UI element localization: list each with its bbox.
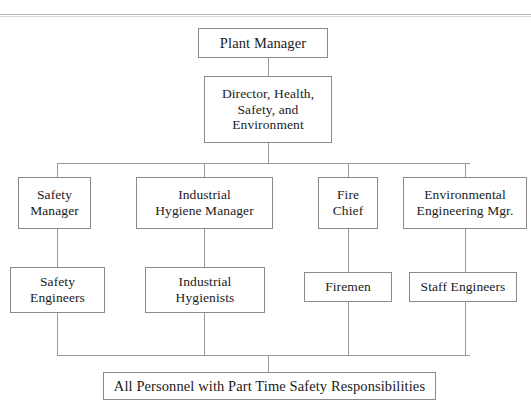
connector-hygienists-to-bus	[204, 313, 205, 356]
node-firemen[interactable]: Firemen	[304, 272, 392, 302]
connector-bus-to-env-eng-mgr	[465, 163, 466, 177]
connector-env-mgr-to-staff-engineers	[465, 229, 466, 272]
node-safety-engineers[interactable]: Safety Engineers	[10, 267, 105, 313]
node-staff-engineers[interactable]: Staff Engineers	[409, 272, 517, 302]
connector-bus-to-all-personnel	[268, 355, 269, 372]
node-all-personnel-label: All Personnel with Part Time Safety Resp…	[111, 378, 428, 395]
connector-ih-manager-to-hygienists	[204, 229, 205, 267]
node-safety-manager[interactable]: Safety Manager	[18, 177, 91, 229]
page-top-rule-shadow	[0, 16, 531, 17]
node-firemen-label: Firemen	[322, 279, 374, 295]
node-safety-engineers-label: Safety Engineers	[27, 274, 88, 305]
node-industrial-hygiene-manager-label: Industrial Hygiene Manager	[152, 187, 257, 218]
node-fire-chief-label: Fire Chief	[330, 187, 367, 218]
node-industrial-hygienists[interactable]: Industrial Hygienists	[145, 267, 265, 313]
connector-safety-manager-to-engineers	[57, 229, 58, 267]
node-director-health-safety-environment[interactable]: Director, Health, Safety, and Environmen…	[204, 76, 332, 143]
connector-upper-bus	[57, 163, 470, 164]
node-industrial-hygienists-label: Industrial Hygienists	[173, 274, 238, 305]
connector-bus-to-fire-chief	[348, 163, 349, 177]
connector-fire-chief-to-firemen	[348, 229, 349, 272]
node-director-label: Director, Health, Safety, and Environmen…	[219, 86, 317, 133]
node-plant-manager-label: Plant Manager	[217, 35, 309, 52]
org-chart-canvas: Plant Manager Director, Health, Safety, …	[0, 0, 531, 418]
node-environmental-engineering-manager[interactable]: Environmental Engineering Mgr.	[403, 177, 527, 229]
connector-safety-engineers-to-bus	[57, 313, 58, 356]
connector-bus-to-safety-manager	[57, 163, 58, 177]
connector-plant-to-director	[268, 58, 269, 76]
connector-firemen-to-bus	[348, 302, 349, 356]
node-fire-chief[interactable]: Fire Chief	[318, 177, 378, 229]
node-safety-manager-label: Safety Manager	[27, 187, 82, 218]
node-all-personnel-part-time-safety[interactable]: All Personnel with Part Time Safety Resp…	[103, 372, 436, 400]
node-plant-manager[interactable]: Plant Manager	[198, 28, 328, 58]
node-staff-engineers-label: Staff Engineers	[418, 279, 509, 295]
connector-staff-engineers-to-bus	[465, 302, 466, 356]
node-environmental-engineering-manager-label: Environmental Engineering Mgr.	[414, 187, 517, 218]
connector-director-to-bus	[268, 143, 269, 164]
node-industrial-hygiene-manager[interactable]: Industrial Hygiene Manager	[136, 177, 273, 229]
connector-lower-bus	[57, 355, 470, 356]
page-top-rule	[0, 14, 531, 15]
connector-bus-to-ih-manager	[204, 163, 205, 177]
